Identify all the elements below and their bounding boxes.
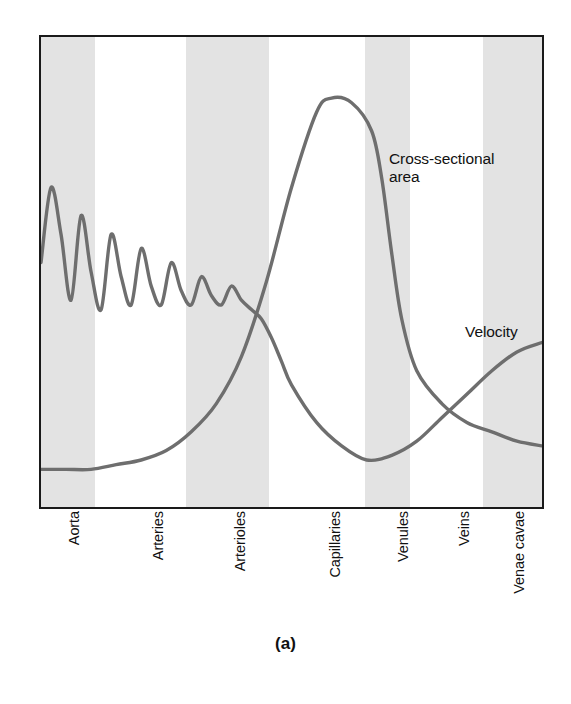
velocity-label: Velocity [465,323,518,341]
figure-caption: (a) [0,634,571,654]
x-axis-label-aorta: Aorta [66,511,82,545]
x-axis-category-labels: AortaArteriesArteriolesCapillariesVenule… [39,511,544,631]
x-axis-label-arteries: Arteries [150,511,166,560]
x-axis-label-capillaries: Capillaries [327,511,343,578]
figure-container: Cross-sectional area Velocity AortaArter… [0,0,571,704]
x-axis-label-veins: Veins [456,511,472,546]
x-axis-label-venules: Venules [395,511,411,562]
plot-area: Cross-sectional area Velocity [39,35,544,509]
cross-sectional-area-label: Cross-sectional area [389,150,494,187]
x-axis-label-venae-cavae: Venae cavae [511,511,527,594]
chart-curves [41,37,542,507]
x-axis-label-arterioles: Arterioles [232,511,248,571]
